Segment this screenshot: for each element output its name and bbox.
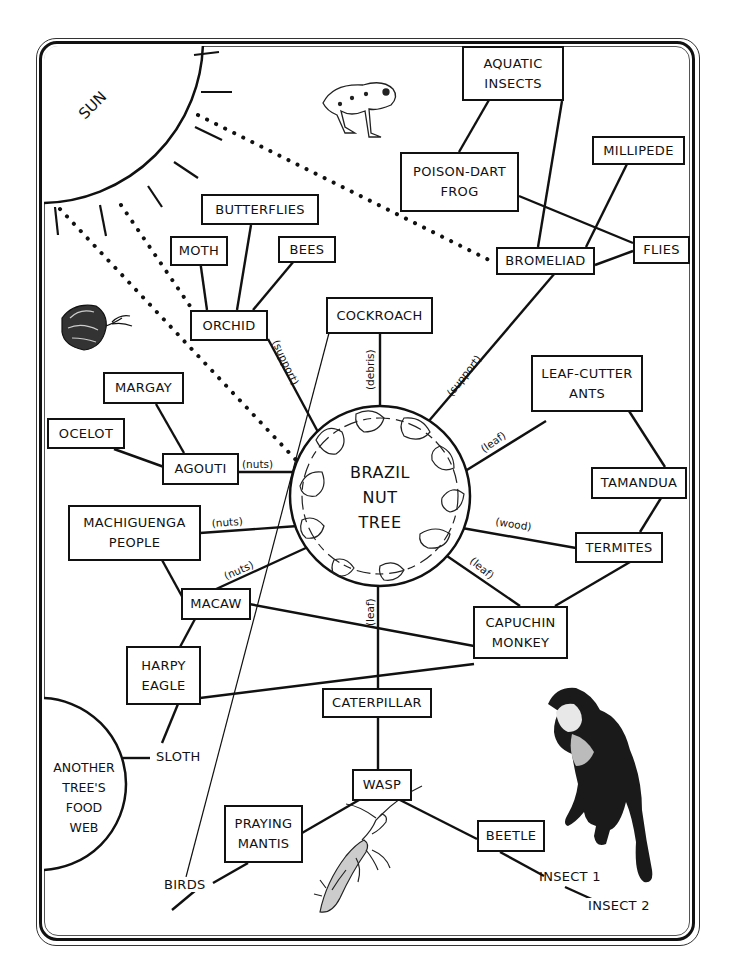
edge-label-people-nuts: (nuts) <box>211 515 243 529</box>
node-moth-label: MOTH <box>179 241 219 261</box>
node-praying-mantis-line-2: MANTIS <box>238 834 290 854</box>
edge-label-bromeliad-support: (support) <box>444 353 483 399</box>
label-birds: BIRDS <box>163 877 207 892</box>
node-harpy-eagle: HARPY EAGLE <box>126 646 201 705</box>
node-margay-label: MARGAY <box>115 378 172 398</box>
another-web-line-2: TREE'S <box>61 780 106 795</box>
node-termites-label: TERMITES <box>585 538 652 558</box>
praying-mantis-drawing <box>314 786 422 912</box>
node-flies-label: FLIES <box>643 240 680 260</box>
edge-moth-orchid <box>200 260 207 310</box>
brazil-nut-tree: BRAZIL NUT TREE <box>290 406 470 586</box>
node-capuchin-monkey: CAPUCHIN MONKEY <box>473 606 568 659</box>
node-agouti-label: AGOUTI <box>174 459 226 479</box>
node-aquatic-insects-line-1: AQUATIC <box>483 54 542 74</box>
edge-aquatic-bromeliad <box>538 101 562 247</box>
node-poison-dart-frog: POISON-DART FROG <box>400 152 519 212</box>
node-caterpillar-label: CATERPILLAR <box>332 693 422 713</box>
node-wasp-label: WASP <box>363 775 401 795</box>
tree-label-line-1: BRAZIL <box>350 463 410 482</box>
node-praying-mantis: PRAYING MANTIS <box>224 805 303 863</box>
edge-ants-tree <box>462 421 546 473</box>
node-leaf-cutter-ants-line-2: ANTS <box>569 384 605 404</box>
edge-butterflies-orchid <box>237 225 251 310</box>
edge-tree-termites <box>462 528 576 548</box>
node-beetle: BEETLE <box>477 820 545 852</box>
node-aquatic-insects: AQUATIC INSECTS <box>462 46 564 101</box>
another-tree-food-web: ANOTHER TREE'S FOOD WEB <box>0 698 126 870</box>
node-ocelot: OCELOT <box>47 418 125 449</box>
node-capuchin-monkey-line-1: CAPUCHIN <box>485 613 555 633</box>
node-macaw: MACAW <box>181 588 251 620</box>
node-machiguenga-people-line-2: PEOPLE <box>109 533 160 553</box>
node-capuchin-monkey-line-2: MONKEY <box>492 633 550 653</box>
edge-wasp-beetle <box>400 800 477 839</box>
node-bees: BEES <box>278 236 336 263</box>
node-aquatic-insects-line-2: INSECTS <box>484 74 541 94</box>
edge-label-ants-leaf: (leaf) <box>478 429 508 455</box>
label-insect-1: INSECT 1 <box>538 869 602 884</box>
node-bromeliad: BROMELIAD <box>496 247 595 275</box>
edge-label-caterpillar-leaf: (leaf) <box>364 598 376 626</box>
another-web-line-3: FOOD <box>66 800 103 815</box>
butterfly-drawing <box>62 305 132 350</box>
edge-millipede-bromeliad <box>586 164 627 247</box>
edge-label-cockroach-debris: (debris) <box>364 349 376 390</box>
edge-label-termites-wood: (wood) <box>495 515 533 533</box>
node-praying-mantis-line-1: PRAYING <box>235 814 293 834</box>
another-web-line-1: ANOTHER <box>53 760 115 775</box>
node-orchid-label: ORCHID <box>202 316 255 336</box>
edge-frog-flies <box>519 196 633 243</box>
edge-macaw-eagle <box>180 619 195 647</box>
node-harpy-eagle-line-2: EAGLE <box>142 676 186 696</box>
another-web-line-4: WEB <box>70 820 99 835</box>
capuchin-monkey-drawing <box>548 688 652 882</box>
node-machiguenga-people-line-1: MACHIGUENGA <box>83 513 185 533</box>
node-millipede-label: MILLIPEDE <box>603 141 673 161</box>
node-poison-dart-frog-line-2: FROG <box>440 182 478 202</box>
edge-birds-tail <box>172 890 196 910</box>
node-macaw-label: MACAW <box>190 594 242 614</box>
node-tamandua: TAMANDUA <box>591 467 687 499</box>
edge-ocelot-agouti <box>114 449 164 467</box>
node-agouti: AGOUTI <box>162 453 239 485</box>
node-cockroach: COCKROACH <box>326 297 433 334</box>
node-orchid: ORCHID <box>190 310 268 341</box>
edge-macaw-capuchin <box>249 604 474 646</box>
node-butterflies: BUTTERFLIES <box>201 194 319 225</box>
node-leaf-cutter-ants: LEAF-CUTTER ANTS <box>531 355 643 412</box>
node-cockroach-label: COCKROACH <box>336 306 422 326</box>
node-ocelot-label: OCELOT <box>59 424 113 444</box>
node-beetle-label: BEETLE <box>486 826 537 846</box>
node-moth: MOTH <box>170 236 228 266</box>
node-flies: FLIES <box>633 236 690 264</box>
edge-label-capuchin-leaf: (leaf) <box>468 554 497 581</box>
edge-termites-capuchin <box>555 562 630 606</box>
edge-bees-orchid <box>253 261 294 310</box>
edge-bromeliad-flies <box>595 251 633 265</box>
label-insect-2: INSECT 2 <box>587 898 651 913</box>
tree-label-line-2: NUT <box>363 488 398 507</box>
node-bees-label: BEES <box>290 240 325 260</box>
edge-margay-agouti <box>156 404 184 453</box>
node-poison-dart-frog-line-1: POISON-DART <box>413 162 506 182</box>
edge-tamandua-termites <box>640 498 661 532</box>
node-machiguenga-people: MACHIGUENGA PEOPLE <box>68 505 201 561</box>
edge-eagle-sloth <box>162 704 178 743</box>
edge-ants-tamandua <box>629 411 665 467</box>
node-tamandua-label: TAMANDUA <box>601 473 677 493</box>
edge-label-agouti-nuts: (nuts) <box>242 458 273 470</box>
node-termites: TERMITES <box>575 532 663 563</box>
sun: SUN <box>0 0 232 236</box>
tree-label-line-3: TREE <box>357 513 401 532</box>
node-millipede: MILLIPEDE <box>592 136 685 165</box>
label-sloth: SLOTH <box>155 749 201 764</box>
node-bromeliad-label: BROMELIAD <box>505 251 585 271</box>
node-margay: MARGAY <box>103 372 184 404</box>
node-harpy-eagle-line-1: HARPY <box>141 656 186 676</box>
node-wasp: WASP <box>352 769 412 801</box>
edge-mantis-birds <box>213 863 248 883</box>
edge-label-orchid-support: (support) <box>270 338 301 387</box>
node-butterflies-label: BUTTERFLIES <box>215 200 305 220</box>
poison-dart-frog-drawing <box>323 83 396 137</box>
